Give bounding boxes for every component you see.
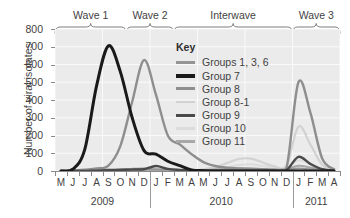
legend-item: Groups 1, 3, 6 [176, 56, 296, 69]
y-tick-label: 400 [17, 95, 43, 106]
legend-item-label: Group 8-1 [202, 97, 249, 108]
legend-item-label: Group 7 [202, 71, 240, 82]
year-label: 2009 [55, 195, 150, 207]
legend-item: Group 7 [176, 69, 296, 82]
y-tick-label: 100 [17, 148, 43, 159]
y-axis-tick-labels: 8007006005004003002001000 [17, 0, 43, 218]
legend-item-label: Group 11 [202, 136, 245, 147]
legend-color-swatch [176, 87, 195, 90]
y-tick-label: 800 [17, 24, 43, 35]
legend-color-swatch [176, 140, 195, 143]
y-tick-label: 200 [17, 130, 43, 141]
x-tick-label: A [327, 178, 341, 188]
year-label: 2011 [293, 195, 341, 207]
legend-item-label: Group 9 [202, 110, 240, 121]
year-label: 2010 [150, 195, 293, 207]
y-tick-label: 600 [17, 59, 43, 70]
legend-item: Group 9 [176, 109, 296, 122]
y-tick-label: 300 [17, 112, 43, 123]
legend-color-swatch [176, 101, 195, 104]
x-axis-year-labels: 200920102011 [55, 195, 341, 209]
legend-title: Key [176, 41, 296, 53]
legend-item-label: Group 10 [202, 123, 246, 134]
legend-color-swatch [176, 61, 195, 64]
chart-legend: Key Groups 1, 3, 6Group 7Group 8Group 8-… [176, 41, 296, 148]
legend-item: Group 11 [176, 135, 296, 148]
y-tick-label: 0 [17, 166, 43, 177]
legend-item: Group 8-1 [176, 96, 296, 109]
legend-color-swatch [176, 114, 195, 118]
legend-color-swatch [176, 74, 195, 78]
legend-item-label: Group 8 [202, 84, 240, 95]
legend-entries: Groups 1, 3, 6Group 7Group 8Group 8-1Gro… [176, 56, 296, 148]
y-tick-label: 700 [17, 41, 43, 52]
y-tick-label: 500 [17, 77, 43, 88]
legend-color-swatch [176, 127, 195, 130]
legend-item: Group 8 [176, 82, 296, 95]
x-axis-month-labels: MJJASONDJFMAMJJASONDJFMA [55, 178, 341, 191]
viral-isolates-chart-figure: Number of viral isolates 800700600500400… [0, 0, 350, 218]
legend-item-label: Groups 1, 3, 6 [202, 57, 269, 68]
legend-item: Group 10 [176, 122, 296, 135]
